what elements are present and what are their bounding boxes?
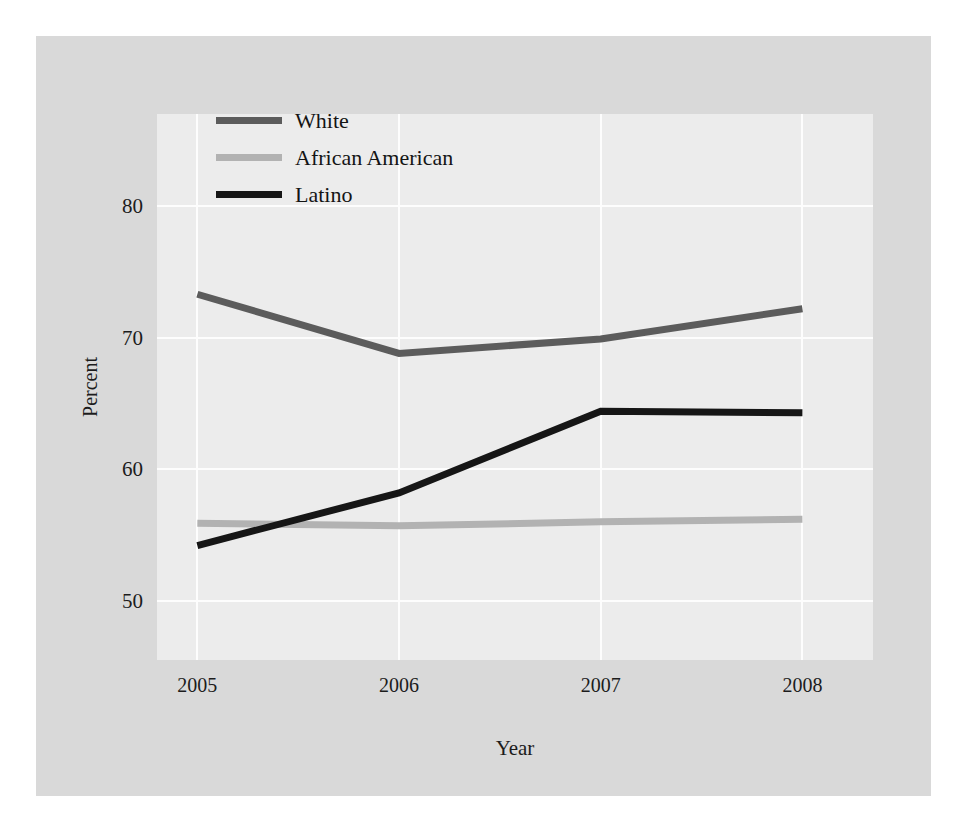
legend-item-african-american[interactable]: African American [216,139,453,176]
legend-item-latino[interactable]: Latino [216,176,453,213]
x-tick-label-2007: 2007 [581,674,621,697]
figure-canvas: 50607080 2005200620072008 Percent Year W… [36,36,931,796]
y-tick-label-80: 80 [122,194,143,219]
legend-swatch-icon [216,117,282,124]
legend-swatch-icon [216,191,282,198]
y-tick-label-70: 70 [122,325,143,350]
x-tick-label-2005: 2005 [177,674,217,697]
line-series-white [197,294,802,353]
y-tick-label-50: 50 [122,588,143,613]
chart-legend: WhiteAfrican AmericanLatino [216,102,453,213]
x-axis-label: Year [496,736,535,761]
legend-label: Latino [295,182,352,208]
legend-label: White [295,108,349,134]
legend-swatch-icon [216,154,282,161]
x-tick-label-2006: 2006 [379,674,419,697]
y-tick-label-60: 60 [122,457,143,482]
x-tick-label-2008: 2008 [782,674,822,697]
y-axis-label: Percent [79,357,102,417]
legend-label: African American [295,145,453,171]
legend-item-white[interactable]: White [216,102,453,139]
